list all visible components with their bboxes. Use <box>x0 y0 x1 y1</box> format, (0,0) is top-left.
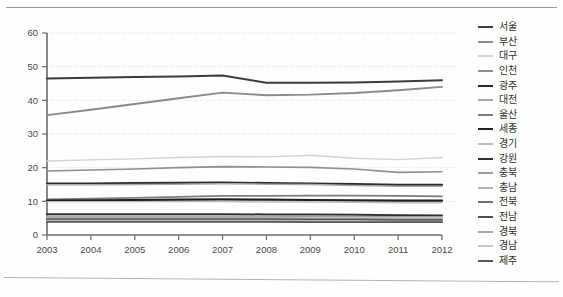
data-series-group <box>47 75 442 222</box>
legend-item-경남[interactable]: 경남 <box>478 239 560 254</box>
chart-legend: 서울부산대구인천광주대전울산세종경기강원충북충남전북전남경북경남제주 <box>478 20 560 268</box>
legend-label: 부산 <box>499 37 517 47</box>
legend-label: 충북 <box>499 168 517 178</box>
legend-item-부산[interactable]: 부산 <box>478 35 560 50</box>
legend-swatch-icon <box>478 187 493 189</box>
legend-label: 제주 <box>499 256 517 266</box>
legend-swatch-icon <box>478 26 493 28</box>
legend-item-경기[interactable]: 경기 <box>478 137 560 152</box>
legend-swatch-icon <box>478 99 493 101</box>
x-tick-label: 2009 <box>300 244 321 255</box>
legend-label: 인천 <box>499 66 517 76</box>
y-tick-label: 30 <box>27 128 38 139</box>
y-tick-label: 20 <box>27 162 38 173</box>
x-tick-label: 2011 <box>388 244 408 255</box>
legend-item-울산[interactable]: 울산 <box>478 108 560 123</box>
legend-swatch-icon <box>478 41 493 43</box>
legend-item-전남[interactable]: 전남 <box>478 210 560 225</box>
legend-item-광주[interactable]: 광주 <box>478 78 560 93</box>
legend-item-경북[interactable]: 경북 <box>478 224 560 239</box>
y-tick-label: 50 <box>27 61 38 72</box>
series-line-서울 <box>47 75 442 82</box>
legend-label: 강원 <box>499 154 517 164</box>
legend-item-서울[interactable]: 서울 <box>478 20 560 35</box>
legend-label: 세종 <box>499 124 517 134</box>
series-line-세종 <box>47 199 442 200</box>
x-tick-label: 2006 <box>168 244 189 255</box>
bottom-border-rule <box>4 277 559 282</box>
x-tick-label: 2004 <box>80 244 101 255</box>
series-line-인천 <box>47 167 442 173</box>
legend-item-인천[interactable]: 인천 <box>478 64 560 79</box>
legend-item-충남[interactable]: 충남 <box>478 181 560 196</box>
legend-label: 충남 <box>499 183 517 193</box>
series-line-경기 <box>47 202 442 203</box>
legend-label: 전북 <box>499 197 517 207</box>
series-line-부산 <box>47 87 442 115</box>
x-tick-label: 2010 <box>344 244 365 255</box>
legend-swatch-icon <box>478 216 493 218</box>
series-line-대구 <box>47 155 442 161</box>
legend-swatch-icon <box>478 260 493 262</box>
legend-swatch-icon <box>478 172 493 174</box>
legend-item-충북[interactable]: 충북 <box>478 166 560 181</box>
legend-swatch-icon <box>478 55 493 57</box>
legend-label: 대전 <box>499 95 517 105</box>
x-tick-label: 2007 <box>212 244 233 255</box>
legend-label: 서울 <box>499 22 517 32</box>
legend-swatch-icon <box>478 201 493 203</box>
chart-figure: 0102030405060 20032004200520062007200820… <box>0 0 563 297</box>
legend-swatch-icon <box>478 231 493 233</box>
legend-item-제주[interactable]: 제주 <box>478 254 560 269</box>
legend-item-강원[interactable]: 강원 <box>478 151 560 166</box>
y-tick-label: 10 <box>27 196 38 207</box>
series-line-강원 <box>47 214 442 215</box>
x-tick-label: 2012 <box>431 244 452 255</box>
y-tick-label: 40 <box>27 95 38 106</box>
x-axis-tick-labels: 2003200420052006200720082009201020112012 <box>36 244 452 255</box>
legend-swatch-icon <box>478 114 493 116</box>
x-tick-label: 2008 <box>256 244 277 255</box>
legend-swatch-icon <box>478 158 493 160</box>
gridlines <box>47 33 458 201</box>
y-axis-tick-labels: 0102030405060 <box>27 27 38 240</box>
legend-swatch-icon <box>478 85 493 87</box>
series-line-충북 <box>47 216 442 217</box>
legend-label: 대구 <box>499 51 517 61</box>
legend-label: 경북 <box>499 227 517 237</box>
x-tick-label: 2003 <box>36 244 57 255</box>
legend-item-대전[interactable]: 대전 <box>478 93 560 108</box>
legend-swatch-icon <box>478 70 493 72</box>
legend-item-전북[interactable]: 전북 <box>478 195 560 210</box>
legend-label: 광주 <box>499 81 517 91</box>
legend-swatch-icon <box>478 143 493 145</box>
legend-label: 경기 <box>499 139 517 149</box>
legend-item-세종[interactable]: 세종 <box>478 122 560 137</box>
legend-swatch-icon <box>478 245 493 247</box>
plot-area: 0102030405060 20032004200520062007200820… <box>0 0 470 270</box>
x-tick-label: 2005 <box>124 244 145 255</box>
legend-label: 전남 <box>499 212 517 222</box>
legend-label: 울산 <box>499 110 517 120</box>
legend-swatch-icon <box>478 128 493 130</box>
y-tick-label: 0 <box>33 229 38 240</box>
legend-item-대구[interactable]: 대구 <box>478 49 560 64</box>
legend-label: 경남 <box>499 241 517 251</box>
line-chart-svg: 0102030405060 20032004200520062007200820… <box>0 0 470 270</box>
y-tick-label: 60 <box>27 27 38 38</box>
